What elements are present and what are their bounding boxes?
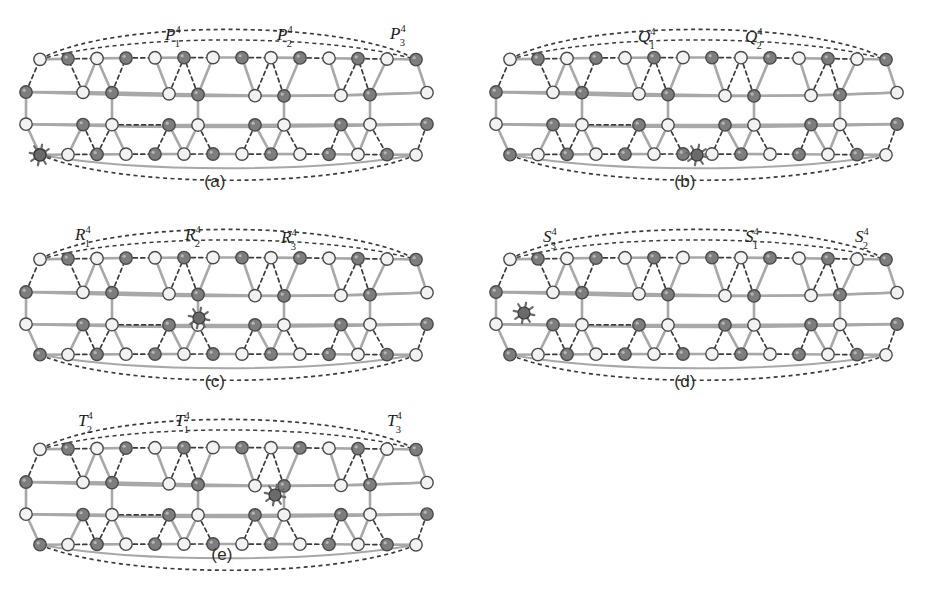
graph-node <box>677 51 689 63</box>
graph-node <box>891 86 903 98</box>
graph-node <box>294 348 306 360</box>
node-highlight <box>252 322 255 325</box>
graph-node <box>163 509 175 521</box>
node-highlight <box>281 92 284 95</box>
label-t3: T43 <box>387 412 407 433</box>
graph-node <box>662 88 674 100</box>
node-highlight <box>751 292 754 295</box>
graph-node <box>748 90 760 102</box>
graph-node <box>410 539 422 551</box>
graph-node <box>364 318 376 330</box>
node-highlight <box>709 54 712 57</box>
graph-node <box>207 51 219 63</box>
node-highlight <box>738 351 741 354</box>
graph-node <box>278 319 290 331</box>
graph-node <box>410 253 422 265</box>
graph-node <box>106 286 118 298</box>
graph-node <box>381 443 393 455</box>
graph-node <box>719 89 731 101</box>
label-t1: T41 <box>175 412 195 433</box>
node-highlight <box>23 89 26 92</box>
graph-node <box>323 442 335 454</box>
node-highlight <box>367 91 370 94</box>
graph-node <box>77 476 89 488</box>
node-highlight <box>665 291 668 294</box>
graph-node <box>719 119 731 131</box>
graph-node <box>490 318 502 330</box>
graph-node <box>62 538 74 550</box>
node-highlight <box>680 351 683 354</box>
graph-node <box>364 508 376 520</box>
graph-node <box>236 251 248 263</box>
node-highlight <box>80 511 83 514</box>
node-highlight <box>123 55 126 58</box>
node-highlight <box>651 54 654 57</box>
graph-node <box>561 52 573 64</box>
graph-node <box>561 148 573 160</box>
graph-node <box>381 348 393 360</box>
graph-node <box>34 539 46 551</box>
graph-node <box>265 441 277 453</box>
graph-node <box>77 118 89 130</box>
graph-node <box>735 148 747 160</box>
graph-node <box>77 86 89 98</box>
graph-node <box>352 52 364 64</box>
graph-node <box>106 476 118 488</box>
graph-node <box>576 319 588 331</box>
graph-node <box>490 118 502 130</box>
graph-node <box>149 442 161 454</box>
node-highlight <box>123 255 126 258</box>
graph-node <box>532 348 544 360</box>
node-highlight <box>80 121 83 124</box>
graph-node <box>880 349 892 361</box>
graph-node <box>149 348 161 360</box>
node-highlight <box>239 54 242 57</box>
node-highlight <box>152 151 155 154</box>
graph-node <box>547 86 559 98</box>
node-highlight <box>65 55 68 58</box>
graph-node <box>163 288 175 300</box>
graph-node <box>178 51 190 63</box>
node-highlight <box>413 256 416 259</box>
graph-node <box>504 53 516 65</box>
graph-node <box>364 89 376 101</box>
node-highlight <box>109 89 112 92</box>
panel-c <box>0 200 471 400</box>
graph-node <box>504 253 516 265</box>
node-highlight <box>535 255 538 258</box>
graph-node <box>192 88 204 100</box>
graph-node <box>178 538 190 550</box>
node-highlight <box>751 92 754 95</box>
graph-node <box>249 319 261 331</box>
graph-node <box>706 51 718 63</box>
dashed-edges <box>26 448 427 545</box>
graph-node <box>294 442 306 454</box>
graph-node <box>706 148 718 160</box>
dashed-edges <box>496 58 897 155</box>
node-highlight <box>181 254 184 257</box>
node-highlight <box>894 321 897 324</box>
graph-node <box>421 508 433 520</box>
graph-node <box>381 148 393 160</box>
node-highlight <box>210 541 213 544</box>
node-highlight <box>550 121 553 124</box>
graph-node <box>207 251 219 263</box>
graph-node <box>249 119 261 131</box>
node-highlight <box>883 256 886 259</box>
node-highlight <box>152 541 155 544</box>
graph-node <box>561 348 573 360</box>
graph-node <box>236 441 248 453</box>
graph-node <box>834 118 846 130</box>
graph-node <box>547 286 559 298</box>
graph-node <box>822 252 834 264</box>
graph-node <box>352 442 364 454</box>
graph-node <box>178 148 190 160</box>
graph-node <box>834 289 846 301</box>
node-highlight <box>579 289 582 292</box>
solid-edges <box>26 258 427 355</box>
graph-node <box>34 253 46 265</box>
graph-node <box>532 148 544 160</box>
graph-node <box>278 290 290 302</box>
graph-node <box>91 538 103 550</box>
graph-node <box>547 318 559 330</box>
